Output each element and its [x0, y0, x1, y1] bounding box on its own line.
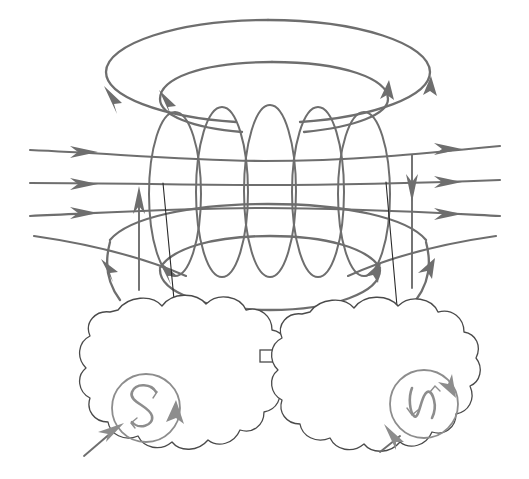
lower-outer-ring	[101, 204, 435, 300]
field-line-1-arrow-right	[434, 143, 462, 155]
coil-loop-3	[244, 105, 296, 277]
lower-inner-arrow-left	[159, 261, 176, 285]
field-line-3	[30, 208, 500, 216]
magnetic-field-diagram: Toroidal magnetic field linking two pola…	[0, 0, 529, 479]
outer-ring-arrow-left	[104, 86, 122, 114]
outer-toroidal-ring	[104, 20, 437, 122]
coil-loop-1	[149, 112, 201, 276]
field-line-2	[30, 180, 500, 185]
coil-loop-4	[292, 107, 344, 277]
field-line-1	[30, 146, 500, 161]
solenoid-coil	[149, 105, 390, 277]
left-cloud-region[interactable]	[80, 295, 289, 456]
coil-loop-2	[196, 107, 248, 277]
inner-toroidal-ring	[159, 62, 394, 132]
right-cloud-region[interactable]	[272, 297, 481, 452]
horizontal-field-lines	[30, 143, 500, 220]
figure-root: Toroidal magnetic field linking two pola…	[0, 0, 529, 479]
left-cloud-outline	[80, 295, 289, 449]
coil-loop-5	[338, 112, 390, 276]
